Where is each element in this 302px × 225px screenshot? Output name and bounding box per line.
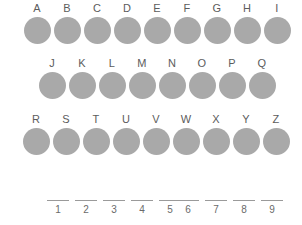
worksheet-canvas: A B C D E F G H — [0, 0, 302, 225]
blank-number: 3 — [111, 204, 117, 216]
letter-cell[interactable]: N — [157, 57, 187, 99]
letter-cell[interactable]: A — [22, 2, 52, 44]
blank-line — [261, 200, 283, 201]
answer-circle[interactable] — [54, 17, 81, 44]
answer-circle[interactable] — [203, 128, 230, 155]
cell-letter-label: H — [243, 2, 251, 16]
letter-cell[interactable]: X — [201, 113, 231, 155]
answer-blank[interactable]: 3 — [103, 200, 125, 216]
cell-letter-label: Q — [258, 57, 267, 71]
answer-blank[interactable]: 7 — [205, 200, 227, 216]
cell-letter-label: L — [109, 57, 115, 71]
cell-letter-label: N — [168, 57, 176, 71]
cell-letter-label: A — [33, 2, 41, 16]
answer-blank[interactable]: 9 — [261, 200, 283, 216]
letter-cell[interactable]: L — [97, 57, 127, 99]
letter-cell[interactable]: O — [187, 57, 217, 99]
cell-letter-label: G — [213, 2, 222, 16]
blank-number: 8 — [241, 204, 247, 216]
answer-circle[interactable] — [99, 72, 126, 99]
answer-circle[interactable] — [264, 17, 291, 44]
letter-row-1: A B C D E F G H — [22, 2, 292, 44]
letter-cell[interactable]: T — [81, 113, 111, 155]
letter-cell[interactable]: K — [67, 57, 97, 99]
cell-letter-label: K — [78, 57, 86, 71]
answer-blanks: 1 2 3 4 5 6 — [0, 200, 302, 225]
answer-circle[interactable] — [53, 128, 80, 155]
letter-cell[interactable]: Z — [261, 113, 291, 155]
cell-letter-label: I — [275, 2, 278, 16]
letter-cell[interactable]: R — [21, 113, 51, 155]
cell-letter-label: X — [212, 113, 220, 127]
blank-number: 6 — [185, 204, 191, 216]
letter-cell[interactable]: G — [202, 2, 232, 44]
letter-row-3: R S T U V W X Y — [21, 113, 291, 155]
letter-cell[interactable]: H — [232, 2, 262, 44]
letter-cell[interactable]: U — [111, 113, 141, 155]
blank-number: 1 — [55, 204, 61, 216]
cell-letter-label: E — [153, 2, 161, 16]
answer-circle[interactable] — [263, 128, 290, 155]
letter-cell[interactable]: P — [217, 57, 247, 99]
cell-letter-label: W — [181, 113, 192, 127]
answer-blank[interactable]: 2 — [75, 200, 97, 216]
blank-number: 5 — [167, 204, 173, 216]
answer-circle[interactable] — [83, 128, 110, 155]
blank-line — [75, 200, 97, 201]
answer-circle[interactable] — [189, 72, 216, 99]
answer-circle[interactable] — [144, 17, 171, 44]
answer-circle[interactable] — [84, 17, 111, 44]
letter-cell[interactable]: E — [142, 2, 172, 44]
answer-blank[interactable]: 4 — [131, 200, 153, 216]
letter-cell[interactable]: C — [82, 2, 112, 44]
blank-line — [205, 200, 227, 201]
cell-letter-label: B — [63, 2, 71, 16]
answer-circle[interactable] — [219, 72, 246, 99]
blank-number: 9 — [269, 204, 275, 216]
letter-cell[interactable]: W — [171, 113, 201, 155]
blank-line — [47, 200, 69, 201]
cell-letter-label: R — [32, 113, 40, 127]
answer-circle[interactable] — [113, 128, 140, 155]
answer-blank[interactable]: 1 — [47, 200, 69, 216]
letter-cell[interactable]: Q — [247, 57, 277, 99]
answer-blank[interactable]: 6 — [177, 200, 199, 216]
answer-circle[interactable] — [23, 128, 50, 155]
answer-circle[interactable] — [249, 72, 276, 99]
answer-circle[interactable] — [114, 17, 141, 44]
cell-letter-label: V — [152, 113, 160, 127]
letter-cell[interactable]: I — [262, 2, 292, 44]
blank-line — [233, 200, 255, 201]
answer-circle[interactable] — [24, 17, 51, 44]
letter-cell[interactable]: S — [51, 113, 81, 155]
letter-cell[interactable]: F — [172, 2, 202, 44]
answer-circle[interactable] — [174, 17, 201, 44]
answer-circle[interactable] — [204, 17, 231, 44]
answer-blank[interactable]: 8 — [233, 200, 255, 216]
cell-letter-label: P — [228, 57, 236, 71]
cell-letter-label: S — [62, 113, 70, 127]
answer-blank-group-2: 6 7 8 9 — [177, 200, 283, 216]
answer-circle[interactable] — [233, 128, 260, 155]
letter-cell[interactable]: V — [141, 113, 171, 155]
answer-circle[interactable] — [143, 128, 170, 155]
cell-letter-label: U — [122, 113, 130, 127]
cell-letter-label: Z — [273, 113, 280, 127]
answer-circle[interactable] — [129, 72, 156, 99]
answer-circle[interactable] — [69, 72, 96, 99]
cell-letter-label: J — [49, 57, 55, 71]
answer-circle[interactable] — [159, 72, 186, 99]
letter-cell[interactable]: Y — [231, 113, 261, 155]
letter-cell[interactable]: M — [127, 57, 157, 99]
letter-cell[interactable]: B — [52, 2, 82, 44]
letter-cell[interactable]: J — [37, 57, 67, 99]
answer-circle[interactable] — [39, 72, 66, 99]
cell-letter-label: O — [198, 57, 207, 71]
answer-circle[interactable] — [234, 17, 261, 44]
cell-letter-label: T — [93, 113, 100, 127]
letter-cell[interactable]: D — [112, 2, 142, 44]
letter-row-2: J K L M N O P Q — [37, 57, 277, 99]
cell-letter-label: M — [137, 57, 146, 71]
answer-blank-group-1: 1 2 3 4 5 — [47, 200, 181, 216]
answer-circle[interactable] — [173, 128, 200, 155]
